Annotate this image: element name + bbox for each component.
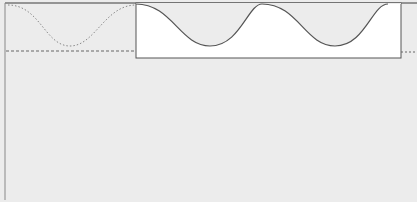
wave-diagram bbox=[0, 0, 417, 202]
